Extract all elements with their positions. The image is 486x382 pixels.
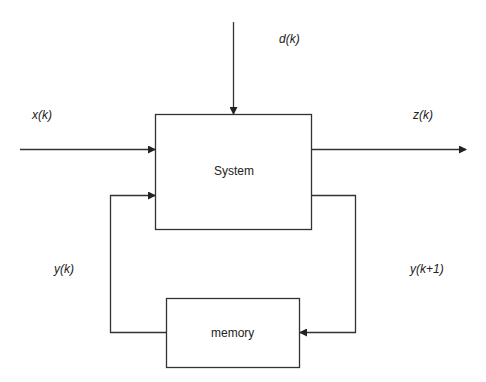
next-state-label: y(k+1): [410, 262, 444, 276]
memory-label: memory: [211, 326, 254, 340]
feedback-next-state-arrow: [300, 196, 356, 333]
block-diagram: [0, 0, 486, 382]
state-label: y(k): [54, 262, 74, 276]
disturbance-label: d(k): [279, 32, 300, 46]
input-label: x(k): [32, 108, 52, 122]
output-label: z(k): [413, 108, 433, 122]
feedback-state-arrow: [111, 196, 167, 333]
system-label: System: [214, 164, 254, 178]
